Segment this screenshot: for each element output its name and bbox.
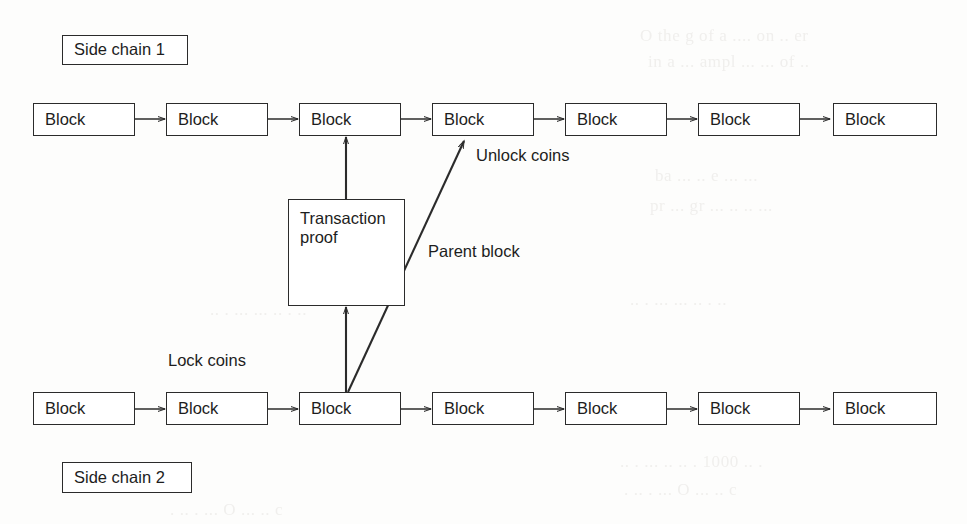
top-block-3[interactable]: Block bbox=[299, 103, 401, 136]
block-label: Block bbox=[45, 399, 85, 418]
bleed-text: pr ... gr ... .. .. ... bbox=[650, 196, 773, 216]
block-label: Block bbox=[710, 399, 750, 418]
block-label: Block bbox=[311, 110, 351, 129]
chain-label-text: Side chain 2 bbox=[74, 468, 165, 487]
top-block-1[interactable]: Block bbox=[33, 103, 135, 136]
bottom-block-5[interactable]: Block bbox=[565, 392, 667, 425]
bleed-text: .. . ... ... .. . .. bbox=[630, 290, 727, 310]
block-label: Block bbox=[444, 110, 484, 129]
block-label: Block bbox=[45, 110, 85, 129]
transaction-proof-line-2: proof bbox=[300, 228, 386, 247]
block-label: Block bbox=[444, 399, 484, 418]
transaction-proof-line-1: Transaction bbox=[300, 209, 386, 228]
block-label: Block bbox=[178, 399, 218, 418]
chain-label-text: Side chain 1 bbox=[74, 40, 165, 59]
block-label: Block bbox=[577, 110, 617, 129]
bleed-text: . .. . ... O ... .. c bbox=[624, 480, 737, 500]
bottom-block-7[interactable]: Block bbox=[833, 392, 937, 425]
chain-label-side-chain-1: Side chain 1 bbox=[62, 35, 188, 65]
transaction-proof-box[interactable]: Transaction proof bbox=[288, 199, 405, 306]
block-label: Block bbox=[178, 110, 218, 129]
bleed-text: . .. . ... O ... .. c bbox=[170, 500, 283, 520]
diagram-canvas: O the g of a .... on .. er in a ... ampl… bbox=[0, 0, 967, 524]
block-label: Block bbox=[710, 110, 750, 129]
top-block-6[interactable]: Block bbox=[698, 103, 800, 136]
bottom-block-3[interactable]: Block bbox=[299, 392, 401, 425]
bleed-text: in a ... ampl ... ... of .. bbox=[648, 52, 810, 72]
bleed-text: .. . ... .. .. . 1000 .. . bbox=[620, 452, 763, 472]
bleed-text: O the g of a .... on .. er bbox=[640, 26, 809, 46]
top-block-7[interactable]: Block bbox=[833, 103, 937, 136]
block-label: Block bbox=[845, 110, 885, 129]
top-block-2[interactable]: Block bbox=[166, 103, 268, 136]
annotation-unlock-coins: Unlock coins bbox=[476, 146, 570, 165]
block-label: Block bbox=[311, 399, 351, 418]
connector-layer bbox=[0, 0, 967, 524]
bottom-block-2[interactable]: Block bbox=[166, 392, 268, 425]
top-block-5[interactable]: Block bbox=[565, 103, 667, 136]
bottom-block-4[interactable]: Block bbox=[432, 392, 534, 425]
top-block-4[interactable]: Block bbox=[432, 103, 534, 136]
block-label: Block bbox=[577, 399, 617, 418]
bottom-block-6[interactable]: Block bbox=[698, 392, 800, 425]
annotation-lock-coins: Lock coins bbox=[168, 351, 246, 370]
chain-label-side-chain-2: Side chain 2 bbox=[62, 462, 192, 493]
annotation-parent-block: Parent block bbox=[428, 242, 520, 261]
bottom-block-1[interactable]: Block bbox=[33, 392, 135, 425]
block-label: Block bbox=[845, 399, 885, 418]
bleed-text: ba ... .. e ... ... bbox=[655, 166, 758, 186]
